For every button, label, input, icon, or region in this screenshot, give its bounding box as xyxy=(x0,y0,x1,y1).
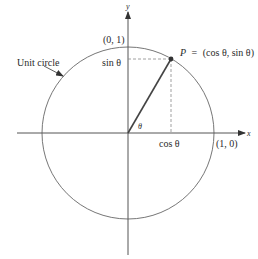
angle-theta-label: θ xyxy=(138,122,142,131)
unit-circle-diagram: x y Unit circle (0, 1) sin θ P = (cos θ,… xyxy=(0,0,258,259)
unit-circle-label: Unit circle xyxy=(17,57,60,68)
point-p-coords: (cos θ, sin θ) xyxy=(203,47,254,59)
point-p-marker xyxy=(169,57,174,62)
x-axis-label: x xyxy=(246,129,251,138)
radius-line xyxy=(128,59,171,133)
point-p-equals: = xyxy=(192,47,198,58)
point-p-name: P xyxy=(179,47,186,58)
point-p-label: P = (cos θ, sin θ) xyxy=(179,47,254,59)
point-top-label: (0, 1) xyxy=(103,34,125,46)
point-right-label: (1, 0) xyxy=(216,138,238,150)
sin-theta-label: sin θ xyxy=(102,57,121,68)
cos-theta-label: cos θ xyxy=(159,138,180,149)
y-axis-label: y xyxy=(125,2,130,11)
